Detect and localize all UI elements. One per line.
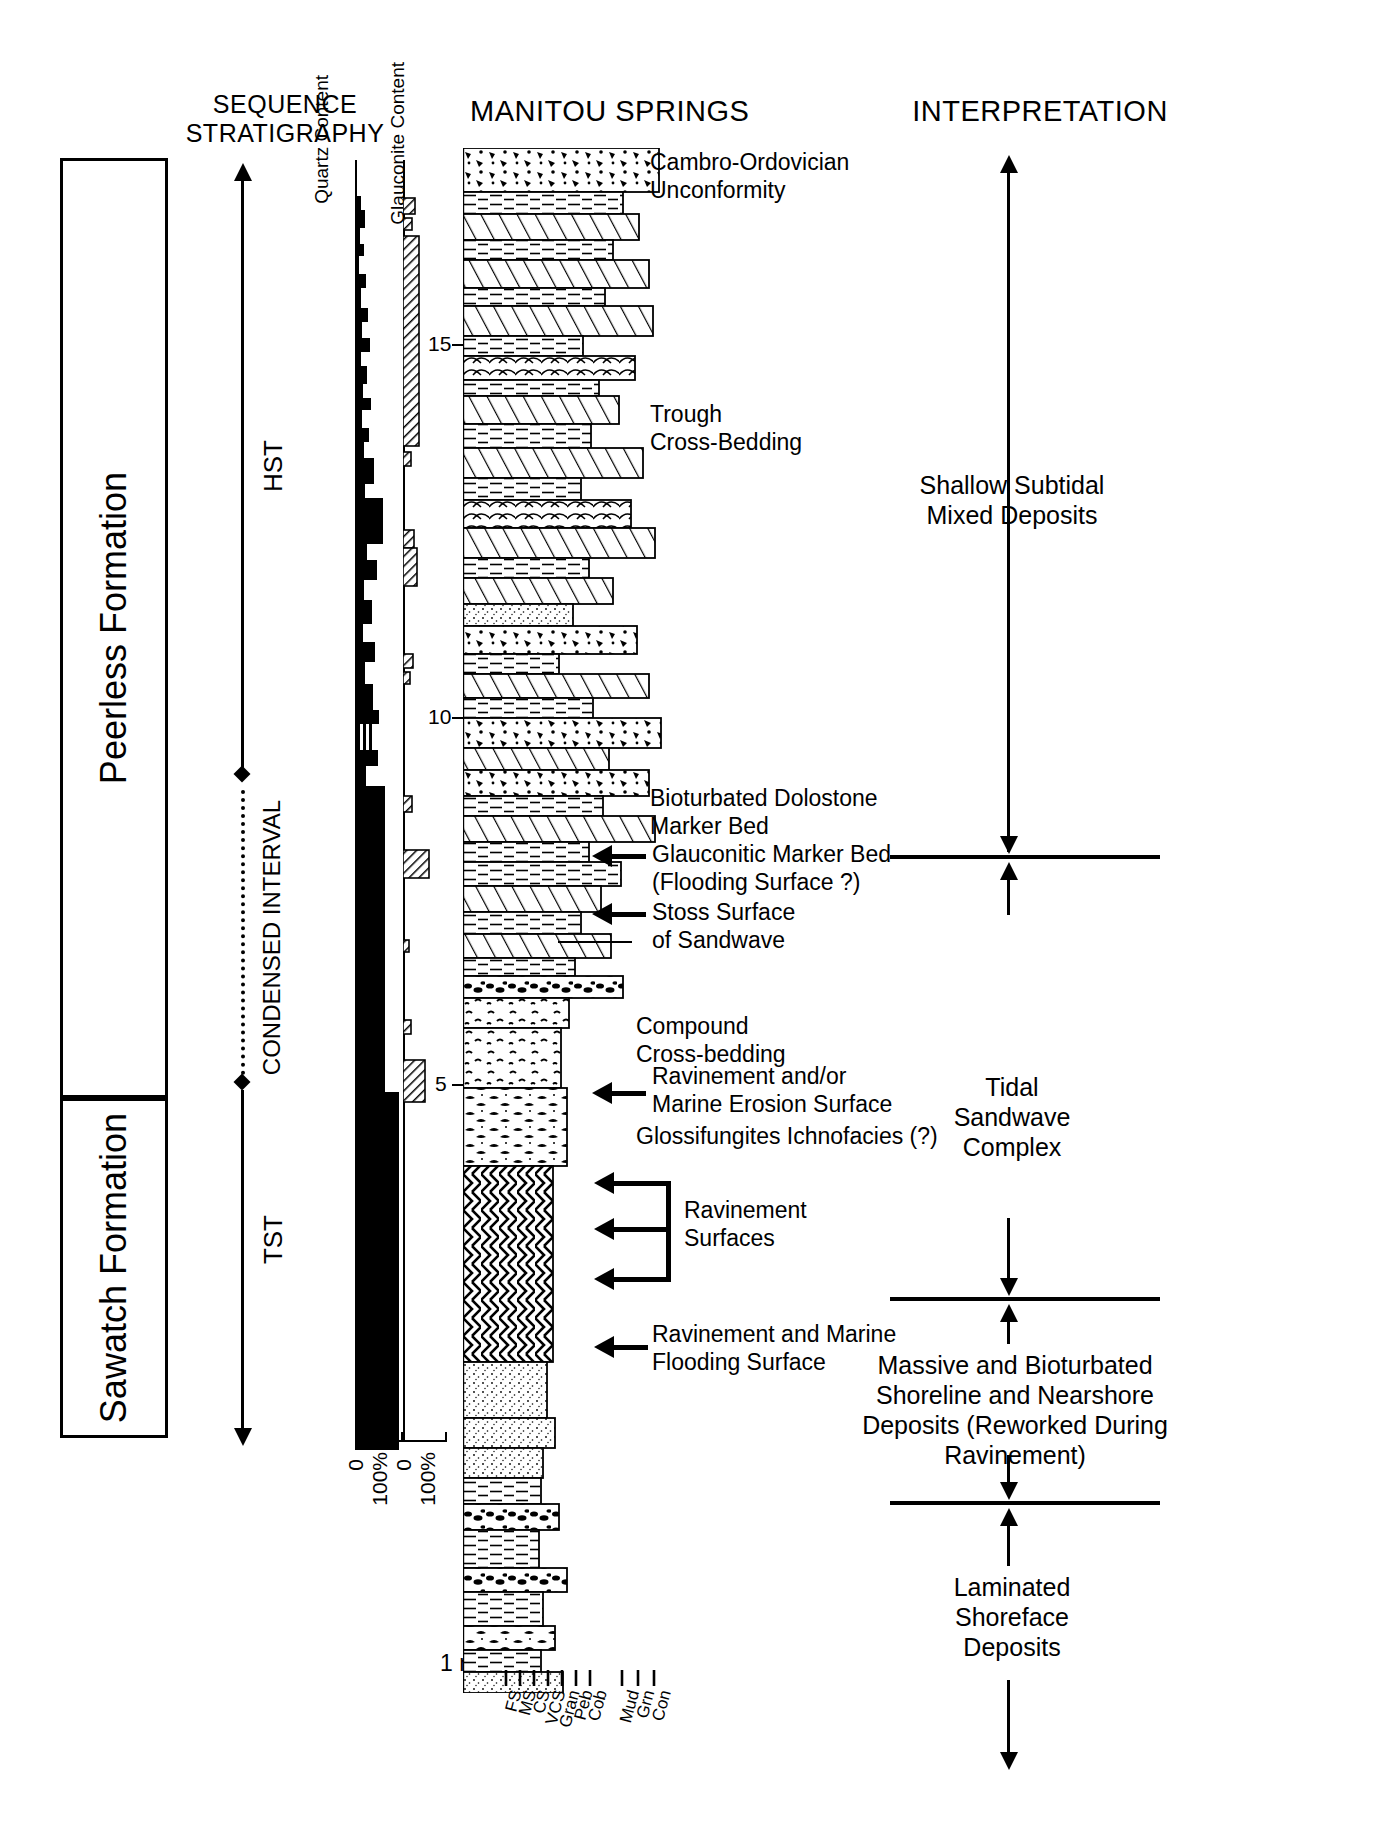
hst-arrow-top-head [234,163,252,181]
annotation-arrow-stoss-surface [592,903,612,925]
interpretation-massive-bioturbated-shoreline-nearshore: Massive and Bioturbated Shoreline and Ne… [845,1350,1185,1470]
glauconite-axis-tick-bar [403,1440,447,1442]
systems-tract-label-tst: TST [258,1215,289,1271]
interp-boundary-line-3 [890,1501,1160,1505]
quartz-min-text: 0 [344,1459,368,1471]
annotation-arrow-ravinement-marine-erosion [592,1082,612,1104]
annotation-bracket-bottom [612,1277,670,1282]
depth-tick-15: 15 [428,332,451,356]
annotation-arrow-shaft-ravinement-erosion [610,1091,646,1096]
systems-tract-label-condensed-interval: CONDENSED INTERVAL [258,800,286,1081]
glauconite-axis-tick-right [445,1432,447,1442]
quartz-axis-min-label: 0 [344,1452,368,1476]
condensed-interval-dotted-line [241,790,245,1075]
depth-tick-10: 10 [428,705,451,729]
interp-arrow-2-shaft [1007,879,1010,915]
annotation-bracket-spine [666,1181,671,1282]
annotation-arrow-glauconitic-marker-bed [592,845,612,867]
header-interpretation: INTERPRETATION [880,95,1200,128]
glauconite-min-text: 0 [392,1459,416,1471]
formation-label-peerless: Peerless Formation [93,472,135,784]
systems-tract-label-hst: HST [258,440,289,499]
condensed-interval-lower-diamond [234,1074,251,1091]
interpretation-laminated-shoreface-deposits: Laminated Shoreface Deposits [862,1572,1162,1662]
annotation-bracket-top [612,1181,670,1186]
interp-arrow-3b-head [1000,1482,1018,1500]
interp-arrow-2b-head [1000,1278,1018,1296]
tst-arrow-bottom-head [234,1428,252,1446]
depth-tick-5: 5 [435,1072,447,1096]
annotation-bioturbated-dolostone-marker-bed: Bioturbated Dolostone Marker Bed [650,784,980,840]
annotation-arrow-shaft-stoss [610,912,646,917]
annotation-arrow-ravinement-marine-flooding [594,1336,614,1358]
interp-boundary-line-2 [890,1297,1160,1301]
interpretation-tidal-sandwave-complex: Tidal Sandwave Complex [862,1072,1162,1162]
tst-arrow-shaft [241,1090,244,1430]
leader-line-bioturbated-dolostone [558,941,632,943]
annotation-arrow-ravinement-surface-1 [594,1172,614,1194]
interp-arrow-4b-shaft [1007,1680,1010,1760]
annotation-arrow-ravinement-surface-2 [594,1218,614,1240]
interp-boundary-line-1 [890,855,1160,859]
glauconite-axis-max-label: 100% [416,1452,440,1511]
annotation-glauconitic-marker-bed: Glauconitic Marker Bed (Flooding Surface… [652,840,982,896]
header-sequence-stratigraphy: SEQUENCE STRATIGRAPHY [150,90,420,148]
annotation-compound-cross-bedding: Compound Cross-bedding [636,1012,936,1068]
glauconite-axis-tick-left [403,1432,405,1442]
annotation-trough-cross-bedding: Trough Cross-Bedding [650,400,950,456]
interp-arrow-2-head [1000,862,1018,880]
hst-arrow-shaft [241,180,244,775]
interp-arrow-4-shaft [1007,1522,1010,1566]
header-quartz-content-label: Quartz Content [312,75,333,204]
quartz-axis-tick-left [355,1432,357,1442]
annotation-cambro-ordovician-unconformity: Cambro-Ordovician Unconformity [650,148,950,204]
annotation-arrow-shaft-flooding [612,1345,648,1350]
glauconite-axis-min-label: 0 [392,1452,416,1476]
interp-arrow-4b-head [1000,1752,1018,1770]
annotation-bracket-middle [612,1227,670,1232]
formation-box-peerless: Peerless Formation [60,158,168,1098]
interp-arrow-1-head [1000,155,1018,173]
stratigraphic-column [463,148,683,1693]
header-manitou-springs: MANITOU SPRINGS [470,95,790,128]
quartz-max-text: 100% [368,1452,392,1506]
grain-size-tick-marks [500,1670,700,1696]
interp-arrow-1-bottom-head [1000,836,1018,854]
formation-box-sawatch: Sawatch Formation [60,1098,168,1438]
tst-label-text: TST [258,1215,289,1264]
condensed-interval-label-text: CONDENSED INTERVAL [258,800,286,1075]
annotation-arrow-shaft-glauconitic [610,854,646,859]
hst-lower-diamond [234,766,251,783]
glauconite-max-text: 100% [416,1452,440,1506]
annotation-ravinement-surfaces: Ravinement Surfaces [684,1196,934,1252]
quartz-axis-max-label: 100% [368,1452,392,1511]
quartz-axis-tick-bar [355,1440,403,1442]
formation-label-sawatch: Sawatch Formation [93,1113,135,1423]
annotation-arrow-ravinement-surface-3 [594,1268,614,1290]
hst-label-text: HST [258,440,289,492]
interpretation-shallow-subtidal-mixed-deposits: Shallow Subtidal Mixed Deposits [862,470,1162,530]
header-quartz-content: Quartz Content [312,75,333,185]
annotation-stoss-surface-of-sandwave: Stoss Surface of Sandwave [652,898,952,954]
interp-arrow-3-shaft [1007,1318,1010,1344]
